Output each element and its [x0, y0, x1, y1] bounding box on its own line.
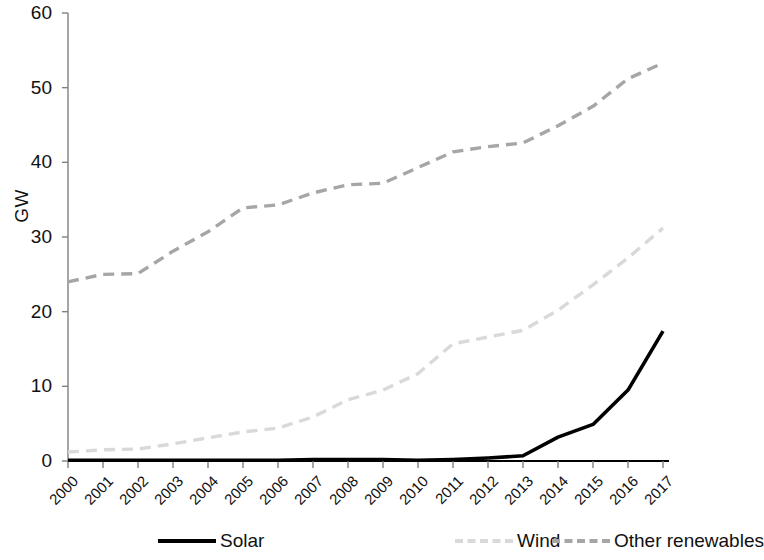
- series-line-solar: [68, 331, 663, 460]
- legend-line-icon: [455, 539, 513, 543]
- legend-label: Solar: [220, 530, 264, 552]
- legend-line-icon: [158, 539, 216, 543]
- legend-item-wind[interactable]: Wind: [455, 528, 560, 554]
- series-line-other-renewables: [68, 63, 663, 282]
- legend-line-icon: [552, 539, 610, 543]
- legend-swatch-wind: [455, 534, 513, 548]
- chart-legend: SolarWindOther renewables: [0, 528, 671, 560]
- legend-item-solar[interactable]: Solar: [158, 528, 264, 554]
- legend-swatch-other-renewables: [552, 534, 610, 548]
- legend-item-other-renewables[interactable]: Other renewables: [552, 528, 764, 554]
- legend-swatch-solar: [158, 534, 216, 548]
- legend-label: Other renewables: [614, 530, 764, 552]
